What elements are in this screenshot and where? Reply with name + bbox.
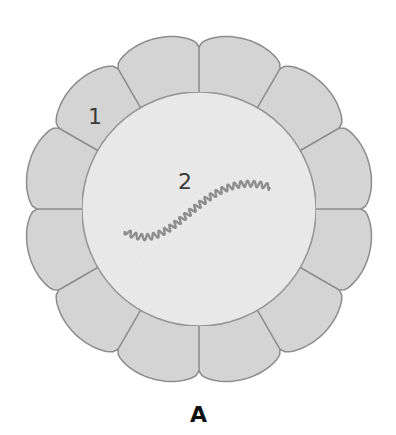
diagram-canvas: 1 2 A — [0, 0, 396, 435]
lumen — [82, 92, 316, 326]
label-1: 1 — [88, 104, 102, 129]
label-2: 2 — [178, 169, 192, 194]
figure-caption: A — [190, 402, 207, 427]
